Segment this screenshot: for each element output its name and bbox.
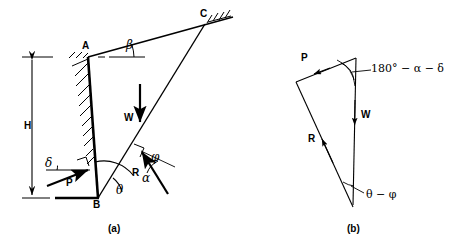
angle-expression-top: 180° − α − δ xyxy=(371,63,444,74)
top-angle-leader-line xyxy=(352,70,371,72)
delta-angle-arc xyxy=(57,166,58,170)
force-triangle-arrow-P xyxy=(314,68,330,74)
angle-label-phi: φ xyxy=(151,151,159,163)
diagram-canvas xyxy=(0,0,449,243)
force-label-R: R xyxy=(132,168,139,178)
angle-label-alpha: α xyxy=(142,172,150,184)
right-angle-marker-plane xyxy=(134,144,144,157)
angle-label-delta: δ xyxy=(45,157,52,169)
force-triangle-label-P: P xyxy=(301,53,308,63)
bottom-angle-arc xyxy=(343,182,354,186)
force-label-P: P xyxy=(66,178,73,188)
angle-label-theta: θ xyxy=(116,184,123,196)
height-label-H: H xyxy=(24,121,31,131)
force-triangle-arrow-R xyxy=(322,139,333,163)
wall-soil-hatching xyxy=(69,52,94,164)
point-label-C: C xyxy=(200,9,207,19)
force-triangle-label-W: W xyxy=(361,110,370,120)
angle-label-beta: β xyxy=(126,39,133,51)
right-angle-marker-wall xyxy=(77,157,89,166)
ground-slope-line-AC xyxy=(88,17,233,57)
force-label-W: W xyxy=(124,113,133,123)
figure-container: A B C H W P R β δ φ α θ P W R 180° − α −… xyxy=(0,0,449,243)
wall-stem-line-AB xyxy=(88,57,98,198)
point-label-B: B xyxy=(93,200,100,210)
top-angle-arc xyxy=(341,63,354,80)
caption-panel-a: (a) xyxy=(108,224,120,234)
angle-expression-bottom: θ − φ xyxy=(366,189,397,200)
caption-panel-b: (b) xyxy=(347,224,360,234)
point-label-A: A xyxy=(82,41,89,51)
force-triangle-label-R: R xyxy=(308,134,315,144)
